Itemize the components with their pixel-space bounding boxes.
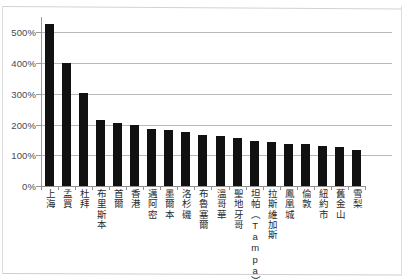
bar bbox=[96, 120, 105, 186]
bar bbox=[198, 135, 207, 186]
y-tick-mark bbox=[36, 32, 41, 33]
x-axis-tick-label: 聖地牙哥 bbox=[232, 189, 243, 230]
bar bbox=[335, 147, 344, 186]
x-axis-tick-label: 墨爾本 bbox=[163, 189, 174, 220]
x-tick-mark bbox=[331, 186, 332, 190]
x-axis-tick-label: 孟買 bbox=[61, 189, 72, 210]
bar bbox=[45, 24, 54, 186]
bar bbox=[301, 144, 310, 186]
x-axis-tick-label: 鳳凰城 bbox=[283, 189, 294, 220]
x-axis-tick-label: 洛杉磯 bbox=[180, 189, 191, 220]
x-axis-tick-label: 香港 bbox=[129, 189, 140, 210]
bar bbox=[181, 132, 190, 186]
bar bbox=[164, 130, 173, 186]
x-tick-mark bbox=[58, 186, 59, 190]
x-axis-tick-label: 紐約市 bbox=[317, 189, 328, 220]
x-axis-tick-label: 上海 bbox=[44, 189, 55, 210]
bar bbox=[79, 93, 88, 186]
x-tick-mark bbox=[109, 186, 110, 190]
bar bbox=[233, 138, 242, 186]
bar bbox=[284, 144, 293, 186]
x-axis-labels: 上海孟買杜拜布里斯本首爾香港邁阿密墨爾本洛杉磯布魯塞爾溫哥華聖地牙哥坦帕（Tam… bbox=[41, 189, 392, 279]
bar bbox=[250, 141, 259, 186]
y-axis-tick-label: 500% bbox=[0, 27, 36, 38]
y-axis-tick-label: 100% bbox=[0, 150, 36, 161]
bar bbox=[352, 150, 361, 186]
x-tick-mark bbox=[229, 186, 230, 190]
x-axis-tick-label: 倫敦 bbox=[300, 189, 311, 210]
x-axis-tick-label: 坦帕（Tampa） bbox=[249, 189, 260, 279]
x-axis-tick-label: 布里斯本 bbox=[95, 189, 106, 230]
x-tick-mark bbox=[194, 186, 195, 190]
y-tick-mark bbox=[36, 125, 41, 126]
x-tick-mark bbox=[75, 186, 76, 190]
y-axis-tick-label: 400% bbox=[0, 58, 36, 69]
x-tick-mark bbox=[365, 186, 366, 190]
bar bbox=[130, 125, 139, 186]
x-axis-tick-label: 首爾 bbox=[112, 189, 123, 210]
bar bbox=[216, 136, 225, 186]
bar bbox=[113, 123, 122, 186]
bar bbox=[147, 129, 156, 186]
x-axis-line bbox=[41, 186, 365, 187]
bar bbox=[267, 142, 276, 186]
x-tick-mark bbox=[297, 186, 298, 190]
x-tick-mark bbox=[263, 186, 264, 190]
y-axis-tick-label: 200% bbox=[0, 119, 36, 130]
x-axis-tick-label: 溫哥華 bbox=[215, 189, 226, 220]
y-axis-tick-label: 0% bbox=[0, 181, 36, 192]
x-tick-mark bbox=[41, 186, 42, 190]
page-border-right bbox=[401, 6, 402, 274]
bar bbox=[318, 146, 327, 186]
bar bbox=[62, 63, 71, 186]
x-axis-tick-label: 拉斯維加斯 bbox=[266, 189, 277, 241]
x-tick-mark bbox=[211, 186, 212, 190]
page-border-top bbox=[2, 6, 402, 9]
x-tick-mark bbox=[314, 186, 315, 190]
x-tick-mark bbox=[280, 186, 281, 190]
x-tick-mark bbox=[348, 186, 349, 190]
x-tick-mark bbox=[246, 186, 247, 190]
x-tick-mark bbox=[126, 186, 127, 190]
y-tick-mark bbox=[36, 63, 41, 64]
bar-chart: 0%100%200%300%400%500% 上海孟買杜拜布里斯本首爾香港邁阿密… bbox=[0, 0, 405, 279]
x-axis-tick-label: 邁阿密 bbox=[146, 189, 157, 220]
y-axis-labels: 0%100%200%300%400%500% bbox=[0, 0, 36, 279]
x-tick-mark bbox=[143, 186, 144, 190]
x-tick-mark bbox=[177, 186, 178, 190]
x-axis-tick-label: 雪梨 bbox=[351, 189, 362, 210]
x-tick-mark bbox=[92, 186, 93, 190]
x-tick-mark bbox=[160, 186, 161, 190]
y-tick-mark bbox=[36, 155, 41, 156]
bars-layer bbox=[41, 17, 392, 186]
y-axis-tick-label: 300% bbox=[0, 88, 36, 99]
x-axis-tick-label: 杜拜 bbox=[78, 189, 89, 210]
x-axis-tick-label: 舊金山 bbox=[334, 189, 345, 220]
x-axis-tick-label: 布魯塞爾 bbox=[197, 189, 208, 230]
y-tick-mark bbox=[36, 94, 41, 95]
